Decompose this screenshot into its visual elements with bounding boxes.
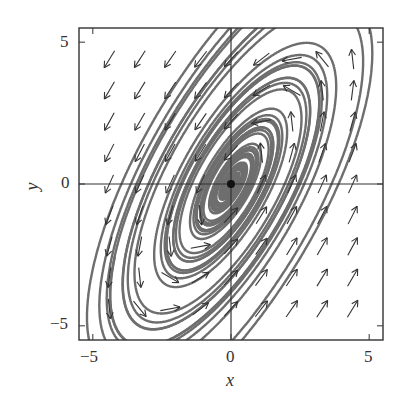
- phase-portrait-plot: [0, 0, 402, 409]
- x-tick-minus5: −5: [80, 347, 98, 367]
- arrow-head: [105, 186, 106, 193]
- y-axis-label: y: [22, 183, 43, 191]
- arrow-head: [297, 301, 298, 308]
- y-tick-0: 0: [61, 173, 70, 193]
- x-tick-0: 0: [226, 347, 235, 367]
- arrow-head: [356, 143, 357, 150]
- arrow-head: [195, 123, 196, 130]
- arrow-head: [326, 175, 327, 182]
- arrow-head: [354, 80, 357, 87]
- y-tick-5: 5: [60, 32, 69, 52]
- arrow-head: [135, 186, 136, 193]
- arrow-head: [296, 175, 297, 182]
- arrow-head: [297, 269, 298, 276]
- arrow-head: [141, 281, 144, 287]
- arrow-head: [288, 112, 291, 118]
- y-tick-minus5: −5: [50, 314, 68, 334]
- x-tick-5: 5: [364, 347, 373, 367]
- arrow-head: [294, 143, 296, 150]
- arrow-head: [196, 186, 197, 193]
- plot-area: [87, 0, 372, 383]
- arrow-head: [166, 186, 167, 193]
- arrow-head: [266, 238, 267, 245]
- arrow-head: [165, 60, 166, 67]
- arrow-head: [165, 92, 166, 99]
- arrow-head: [134, 61, 135, 68]
- arrow-head: [327, 300, 328, 307]
- arrow-head: [349, 49, 352, 55]
- arrow-head: [171, 250, 174, 256]
- arrow-head: [357, 175, 358, 182]
- arrow-head: [204, 242, 211, 244]
- arrow-head: [266, 175, 267, 182]
- equilibrium-point: [227, 180, 235, 188]
- arrow-head: [173, 305, 180, 307]
- x-axis-label: x: [226, 370, 234, 391]
